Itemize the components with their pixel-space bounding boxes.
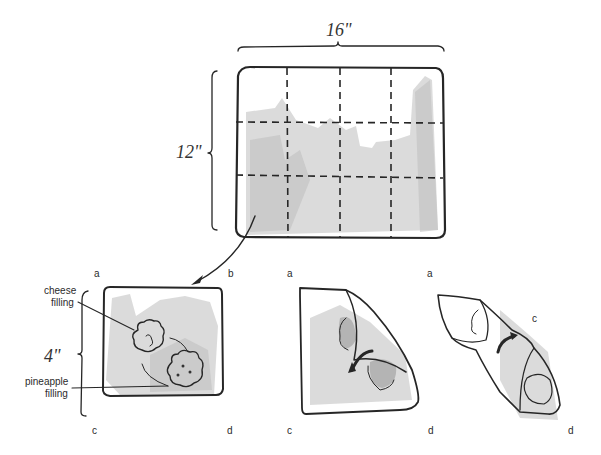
dough-sheet: 16" 12" [176, 20, 445, 285]
corner-d: d [227, 425, 233, 436]
corner-c: c [92, 425, 97, 436]
width-brace [238, 42, 444, 51]
cheese-peek [472, 310, 479, 334]
step-fold: a c d [287, 268, 434, 436]
height-brace [208, 71, 217, 230]
height-label: 12" [176, 142, 202, 162]
folding-diagram: 16" 12" cheese filling pineapple filling… [0, 0, 601, 455]
corner-a: a [427, 268, 433, 279]
size-label: 4" [44, 346, 61, 366]
corner-d: d [568, 425, 574, 436]
cheese-label-line2: filling [51, 297, 74, 308]
corner-c: c [287, 425, 292, 436]
pineapple-label-line1: pineapple [25, 376, 69, 387]
corner-a: a [94, 268, 100, 279]
corner-d: d [428, 425, 434, 436]
size-brace [78, 291, 88, 416]
corner-a: a [287, 268, 293, 279]
corner-c: c [532, 313, 537, 324]
pineapple-bit [182, 365, 185, 368]
cheese-label-line1: cheese [44, 285, 77, 296]
roll-flap [452, 300, 488, 342]
step-roll: a c d [427, 268, 574, 436]
pineapple-bit [177, 374, 180, 377]
pineapple-bit [189, 371, 192, 374]
width-label: 16" [326, 20, 352, 40]
corner-b: b [228, 268, 234, 279]
pineapple-label-line2: filling [45, 388, 68, 399]
step-square: cheese filling pineapple filling 4" a b … [25, 268, 234, 436]
